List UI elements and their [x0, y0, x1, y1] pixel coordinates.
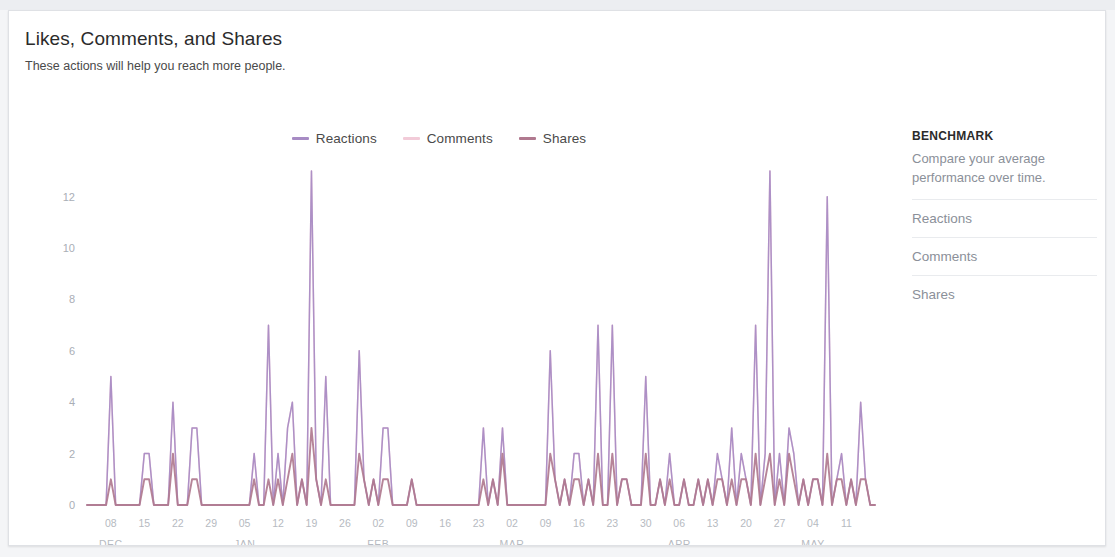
y-axis-tick-label: 2 — [69, 448, 75, 460]
x-axis-tick-label: 06 — [673, 517, 685, 529]
benchmark-item-shares[interactable]: Shares — [912, 275, 1097, 313]
card-header: Likes, Comments, and Shares These action… — [25, 27, 1089, 75]
x-axis-tick-label: 02 — [506, 517, 518, 529]
y-axis-tick-label: 6 — [69, 345, 75, 357]
y-axis-tick-label: 8 — [69, 293, 75, 305]
benchmark-panel: BENCHMARK Compare your average performan… — [912, 129, 1097, 313]
y-axis-tick-label: 0 — [69, 499, 75, 511]
benchmark-item-comments[interactable]: Comments — [912, 237, 1097, 275]
chart-line-reactions — [87, 171, 875, 505]
x-axis-tick-label: 20 — [740, 517, 752, 529]
x-axis-tick-label: 23 — [473, 517, 485, 529]
x-axis-month-label: JAN — [234, 538, 255, 546]
x-axis-tick-label: 12 — [272, 517, 284, 529]
x-axis-tick-label: 16 — [439, 517, 451, 529]
page-top-strip — [0, 0, 1115, 10]
page-title: Likes, Comments, and Shares — [25, 27, 1089, 51]
benchmark-title: BENCHMARK — [912, 129, 1097, 143]
x-axis-tick-label: 16 — [573, 517, 585, 529]
x-axis-tick-label: 19 — [306, 517, 318, 529]
x-axis-tick-label: 29 — [205, 517, 217, 529]
x-axis-tick-label: 09 — [540, 517, 552, 529]
x-axis-tick-label: 13 — [707, 517, 719, 529]
x-axis-month-label: FEB — [367, 538, 389, 546]
x-axis-tick-label: 23 — [606, 517, 618, 529]
y-axis-tick-label: 4 — [69, 396, 75, 408]
x-axis-tick-label: 09 — [406, 517, 418, 529]
chart-svg: 0246810120815222905121926020916230209162… — [9, 111, 899, 546]
page-root: Likes, Comments, and Shares These action… — [0, 0, 1115, 557]
x-axis-tick-label: 22 — [172, 517, 184, 529]
x-axis-month-label: MAY — [801, 538, 824, 546]
x-axis-tick-label: 26 — [339, 517, 351, 529]
x-axis-tick-label: 30 — [640, 517, 652, 529]
benchmark-item-list: ReactionsCommentsShares — [912, 199, 1097, 313]
x-axis-month-label: MAR — [500, 538, 525, 546]
x-axis-tick-label: 08 — [105, 517, 117, 529]
likes-comments-shares-card: Likes, Comments, and Shares These action… — [8, 10, 1106, 546]
benchmark-item-reactions[interactable]: Reactions — [912, 199, 1097, 237]
x-axis-tick-label: 02 — [372, 517, 384, 529]
x-axis-tick-label: 27 — [774, 517, 786, 529]
x-axis-tick-label: 11 — [841, 517, 852, 529]
y-axis-tick-label: 10 — [63, 242, 75, 254]
card-subtitle: These actions will help you reach more p… — [25, 57, 1089, 75]
x-axis-tick-label: 05 — [239, 517, 251, 529]
benchmark-description: Compare your average performance over ti… — [912, 149, 1097, 187]
x-axis-month-label: APR — [668, 538, 691, 546]
y-axis-tick-label: 12 — [63, 191, 75, 203]
x-axis-month-label: DEC — [99, 538, 123, 546]
chart-zone: ReactionsCommentsShares 0246810120815222… — [9, 111, 899, 546]
x-axis-tick-label: 15 — [138, 517, 150, 529]
chart-plot-area: 0246810120815222905121926020916230209162… — [9, 111, 899, 546]
x-axis-tick-label: 04 — [807, 517, 819, 529]
